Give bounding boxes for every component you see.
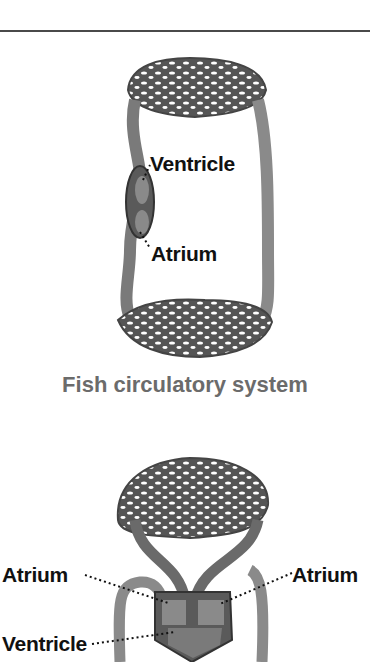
mammal-ventricle-label: Ventricle <box>2 632 87 656</box>
fish-atrium-label: Atrium <box>151 242 217 266</box>
fish-body-capillaries <box>118 299 272 357</box>
fish-diagram-caption: Fish circulatory system <box>0 372 370 398</box>
fish-gill-capillaries <box>128 58 266 117</box>
fish-ventricle-label: Ventricle <box>150 152 235 176</box>
mammal-right-atrium-label: Atrium <box>292 563 358 587</box>
fish-heart <box>126 166 154 238</box>
mammal-left-atrium-label: Atrium <box>2 563 68 587</box>
